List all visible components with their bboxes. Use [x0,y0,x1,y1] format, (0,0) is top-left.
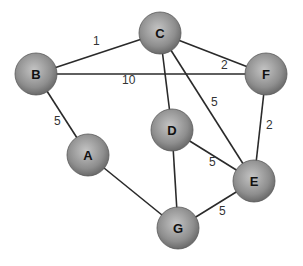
edge-weight-label: 5 [209,155,216,169]
node-b: B [15,53,57,95]
node-a: A [67,134,109,176]
nodes-layer: ABCDEFG [15,12,287,249]
node-label: G [173,221,183,236]
node-g: G [157,207,199,249]
edge-weight-label: 5 [219,204,226,218]
edge-weight-label: 10 [122,73,136,87]
node-d: D [151,109,193,151]
edge-weight-label: 5 [211,95,218,109]
edge-weight-label: 5 [54,114,61,128]
node-e: E [233,160,275,202]
edge-weight-label: 1 [93,34,100,48]
node-label: A [83,148,93,163]
node-label: D [167,123,176,138]
edge-weight-label: 2 [266,118,273,132]
graph-diagram: 110255255 ABCDEFG [0,0,303,266]
edge-weight-label: 2 [221,58,228,72]
node-label: B [31,67,40,82]
node-f: F [245,53,287,95]
node-label: E [250,174,259,189]
node-c: C [139,12,181,54]
node-label: F [262,67,270,82]
node-label: C [155,26,165,41]
